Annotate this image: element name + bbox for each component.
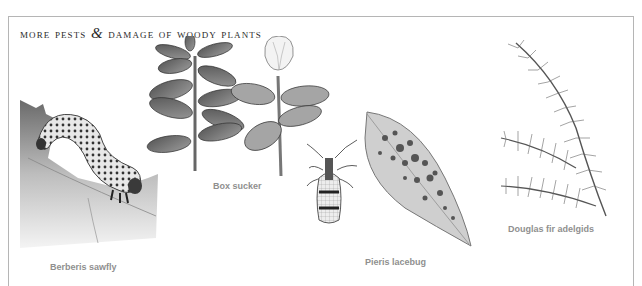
label-douglas-fir-adelgids: Douglas fir adelgids [508, 224, 594, 234]
label-berberis-sawfly: Berberis sawfly [50, 262, 117, 272]
pieris-lacebug-illustration [305, 108, 475, 250]
label-pieris-lacebug: Pieris lacebug [365, 257, 426, 267]
berberis-sawfly-illustration [18, 98, 160, 250]
title-text-1: More pests [20, 26, 86, 41]
title-ampersand: & [91, 25, 104, 41]
label-box-sucker: Box sucker [213, 181, 262, 191]
douglas-fir-adelgids-illustration [496, 38, 616, 220]
